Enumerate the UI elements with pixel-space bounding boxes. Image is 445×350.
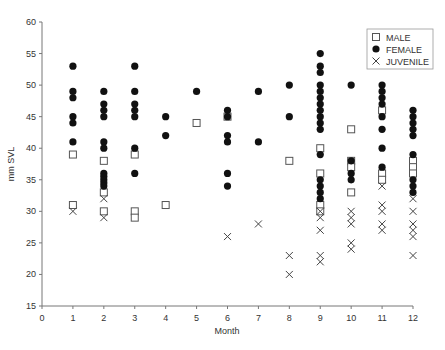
data-points <box>69 50 416 278</box>
male-point <box>410 170 417 177</box>
x-tick-label: 2 <box>101 313 106 323</box>
x-tick-label: 7 <box>256 313 261 323</box>
female-point <box>317 119 324 126</box>
female-point <box>224 113 231 120</box>
male-point <box>193 119 200 126</box>
y-tick-label: 15 <box>26 301 36 311</box>
female-legend-marker <box>372 45 379 52</box>
female-point <box>378 126 385 133</box>
female-point <box>131 170 138 177</box>
y-tick-label: 60 <box>26 17 36 27</box>
female-point <box>131 88 138 95</box>
juvenile-point <box>286 252 293 259</box>
female-point <box>69 119 76 126</box>
scatter-chart: 152025303540455055600123456789101112 Mon… <box>0 0 445 350</box>
y-tick-label: 40 <box>26 143 36 153</box>
female-point <box>317 151 324 158</box>
female-point <box>286 113 293 120</box>
male-point <box>69 151 76 158</box>
female-point <box>317 195 324 202</box>
female-point <box>378 145 385 152</box>
juvenile-point <box>410 252 417 259</box>
female-point <box>317 189 324 196</box>
female-point <box>100 88 107 95</box>
male-point <box>348 126 355 133</box>
x-tick-label: 9 <box>318 313 323 323</box>
legend-label-juvenile: JUVENILE <box>386 57 429 67</box>
juvenile-point <box>348 214 355 221</box>
female-point <box>131 100 138 107</box>
juvenile-point <box>379 227 386 234</box>
juvenile-point <box>255 220 262 227</box>
female-point <box>69 94 76 101</box>
tick-labels: 152025303540455055600123456789101112 <box>26 17 418 323</box>
female-point <box>224 182 231 189</box>
juvenile-point <box>410 195 417 202</box>
x-tick-label: 10 <box>346 313 356 323</box>
juvenile-point <box>379 220 386 227</box>
female-point <box>317 126 324 133</box>
female-point <box>317 107 324 114</box>
y-tick-label: 55 <box>26 49 36 59</box>
male-point <box>162 202 169 209</box>
male-point <box>131 214 138 221</box>
juvenile-point <box>410 220 417 227</box>
female-point <box>409 113 416 120</box>
female-point <box>69 113 76 120</box>
y-tick-label: 20 <box>26 269 36 279</box>
female-point <box>348 157 355 164</box>
x-tick-label: 1 <box>70 313 75 323</box>
juvenile-point <box>348 239 355 246</box>
juvenile-point <box>224 233 231 240</box>
female-point <box>317 82 324 89</box>
male-point <box>100 157 107 164</box>
x-tick-label: 4 <box>163 313 168 323</box>
female-point <box>100 107 107 114</box>
y-tick-label: 25 <box>26 238 36 248</box>
female-point <box>409 107 416 114</box>
female-point <box>409 126 416 133</box>
female-point <box>131 107 138 114</box>
x-tick-label: 12 <box>408 313 418 323</box>
female-point <box>224 132 231 139</box>
male-point <box>379 107 386 114</box>
female-point <box>317 50 324 57</box>
x-tick-label: 6 <box>225 313 230 323</box>
female-point <box>409 182 416 189</box>
x-tick-label: 3 <box>132 313 137 323</box>
male-point <box>131 151 138 158</box>
male-point <box>348 164 355 171</box>
female-point <box>100 113 107 120</box>
juvenile-point <box>410 233 417 240</box>
y-tick-label: 35 <box>26 175 36 185</box>
female-point <box>286 82 293 89</box>
female-point <box>224 170 231 177</box>
y-tick-label: 30 <box>26 206 36 216</box>
legend-label-male: MALE <box>386 33 411 43</box>
x-tick-label: 8 <box>287 313 292 323</box>
male-point <box>100 189 107 196</box>
female-point <box>317 113 324 120</box>
juvenile-point <box>348 208 355 215</box>
female-point <box>255 138 262 145</box>
male-point <box>286 157 293 164</box>
female-point <box>409 151 416 158</box>
female-point <box>378 100 385 107</box>
female-point <box>317 69 324 76</box>
juvenile-point <box>410 208 417 215</box>
y-tick-label: 50 <box>26 80 36 90</box>
female-point <box>224 107 231 114</box>
male-point <box>348 189 355 196</box>
female-point <box>100 100 107 107</box>
juvenile-point <box>317 227 324 234</box>
female-point <box>162 132 169 139</box>
female-point <box>409 189 416 196</box>
female-point <box>378 164 385 171</box>
female-point <box>317 176 324 183</box>
female-point <box>378 88 385 95</box>
female-point <box>317 88 324 95</box>
axes <box>39 22 413 309</box>
female-point <box>409 119 416 126</box>
male-point <box>69 202 76 209</box>
female-point <box>348 176 355 183</box>
